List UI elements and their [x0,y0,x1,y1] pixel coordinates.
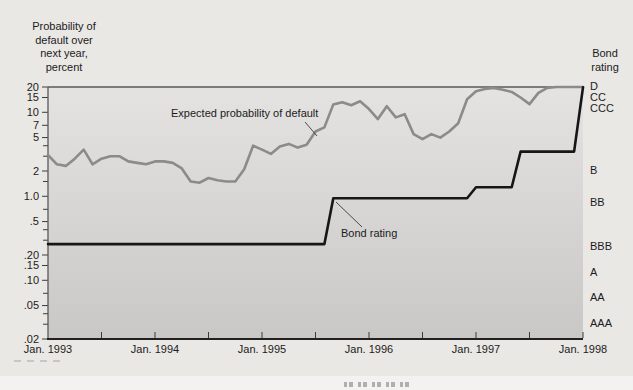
y-tick-label: 10 [27,106,39,118]
y-tick-label: 7 [33,119,39,131]
rating-label: AA [590,291,605,303]
annotation-bond-rating: Bond rating [341,227,397,239]
page-scan-artifact [14,360,60,362]
y-tick-label: .5 [30,215,39,227]
rating-label: CCC [590,102,614,114]
cropped-caption-fragment [344,382,414,387]
y-tick-label: .10 [24,274,39,286]
y-tick-label: .15 [24,259,39,271]
annotation-expected-probability: Expected probability of default [171,107,318,119]
rating-label: AAA [590,317,613,329]
right-axis-title: Bond rating [584,47,626,74]
rating-label: BB [590,196,605,208]
rating-label: B [590,164,597,176]
rating-label: D [590,80,598,92]
y-tick-label: 15 [27,91,39,103]
x-tick-label: Jan. 1994 [131,343,179,355]
y-tick-label: 2 [33,165,39,177]
x-tick-label: Jan. 1995 [238,343,286,355]
y-tick-label: 5 [33,131,39,143]
y-tick-label: .05 [24,299,39,311]
rating-label: BBB [590,240,612,252]
y-axis-title: Probability of default over next year, p… [17,20,111,74]
x-tick-label: Jan. 1998 [559,343,607,355]
x-tick-label: Jan. 1997 [452,343,500,355]
y-tick-label: 1.0 [24,190,39,202]
x-tick-label: Jan. 1993 [24,343,72,355]
x-tick-label: Jan. 1996 [345,343,393,355]
figure-page: 2015107521.0.5.20.15.10.05.02Jan. 1993Ja… [0,0,633,390]
rating-label: A [590,266,598,278]
plot-area [48,87,583,339]
